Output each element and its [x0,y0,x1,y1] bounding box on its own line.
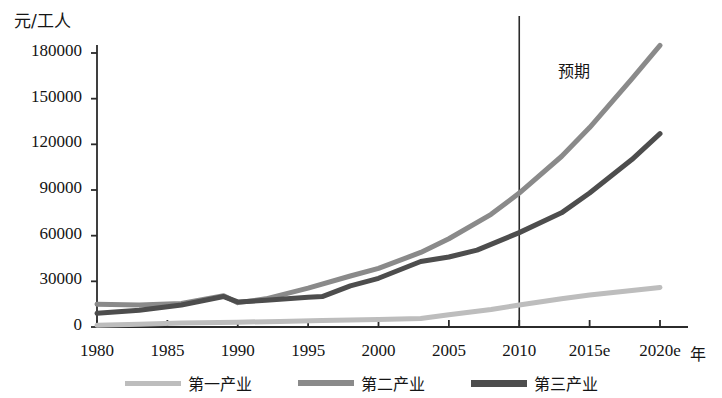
line-plot-area [0,0,722,398]
chart-container: 元/工人 年 180000150000120000900006000030000… [0,0,722,398]
legend-swatch-icon [298,380,354,386]
legend-label: 第三产业 [534,371,598,395]
legend-item-2[interactable]: 第二产业 [298,371,425,395]
legend-label: 第一产业 [188,371,252,395]
chart-legend: 第一产业第二产业第三产业 [0,369,722,397]
series-line-2 [97,45,660,305]
series-line-3 [97,134,660,314]
legend-swatch-icon [125,381,181,386]
legend-swatch-icon [471,380,527,387]
legend-item-1[interactable]: 第一产业 [125,371,252,395]
legend-label: 第二产业 [361,371,425,395]
legend-item-3[interactable]: 第三产业 [471,371,598,395]
